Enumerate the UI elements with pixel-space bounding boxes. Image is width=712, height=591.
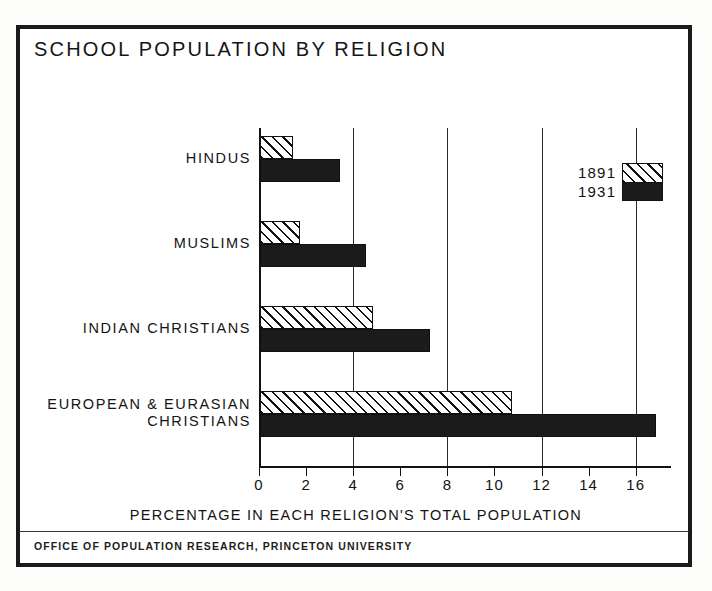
category-label-hindus: HINDUS [6, 150, 251, 167]
x-tick-14 [589, 468, 590, 476]
bar-1891-european-eurasian-christians [260, 391, 512, 414]
bar-1931-hindus [260, 159, 340, 182]
x-tick-8 [447, 468, 448, 476]
x-tick-label-4: 4 [348, 476, 357, 493]
x-tick-label-16: 16 [626, 476, 645, 493]
category-label-european-eurasian-christians: EUROPEAN & EURASIAN CHRISTIANS [6, 396, 251, 430]
legend-swatch-1891-hatched [623, 164, 662, 183]
legend-label-1931: 1931 [578, 182, 616, 201]
x-tick-label-8: 8 [443, 476, 452, 493]
x-tick-label-14: 14 [579, 476, 598, 493]
x-tick-label-2: 2 [301, 476, 310, 493]
x-axis-title: PERCENTAGE IN EACH RELIGION'S TOTAL POPU… [0, 507, 712, 523]
x-tick-0 [259, 468, 260, 476]
legend: 1891 1931 [578, 163, 663, 201]
bar-1891-indian-christians [260, 306, 373, 329]
page-title: SCHOOL POPULATION BY RELIGION [34, 38, 448, 61]
category-label-muslims: MUSLIMS [6, 235, 251, 252]
legend-label-1891: 1891 [578, 163, 616, 182]
footer-divider [19, 531, 689, 532]
x-tick-label-6: 6 [396, 476, 405, 493]
bar-1891-hindus [260, 136, 293, 159]
x-tick-label-0: 0 [254, 476, 263, 493]
x-tick-16 [636, 468, 637, 476]
legend-swatch [622, 163, 663, 201]
x-axis-line [259, 466, 671, 468]
x-tick-label-10: 10 [485, 476, 504, 493]
x-tick-2 [306, 468, 307, 476]
x-tick-6 [400, 468, 401, 476]
x-tick-label-12: 12 [532, 476, 551, 493]
legend-swatch-1931-solid [623, 183, 662, 201]
legend-labels: 1891 1931 [578, 163, 616, 201]
bar-1931-muslims [260, 244, 366, 267]
footer-credit: OFFICE OF POPULATION RESEARCH, PRINCETON… [34, 540, 412, 552]
x-tick-4 [353, 468, 354, 476]
x-tick-12 [542, 468, 543, 476]
category-label-indian-christians: INDIAN CHRISTIANS [6, 320, 251, 337]
figure-page: SCHOOL POPULATION BY RELIGION 0246810121… [0, 0, 712, 591]
bar-1931-indian-christians [260, 329, 430, 352]
bar-1931-european-eurasian-christians [260, 414, 656, 437]
x-tick-10 [494, 468, 495, 476]
bar-1891-muslims [260, 221, 300, 244]
